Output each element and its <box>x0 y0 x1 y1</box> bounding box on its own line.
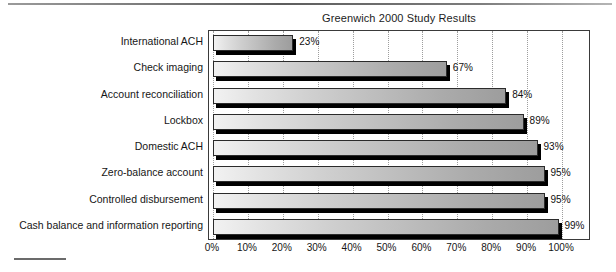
bar-rows: 23%67%84%89%93%95%95%99% <box>209 31 589 239</box>
bar-value-label: 99% <box>565 220 585 231</box>
category-axis-labels: International ACHCheck imagingAccount re… <box>0 30 203 240</box>
bar[interactable] <box>213 35 293 51</box>
x-tick-label: 10% <box>237 242 257 253</box>
bar-value-label: 95% <box>551 194 571 205</box>
category-label: Controlled disbursement <box>0 193 203 205</box>
category-label: Check imaging <box>0 61 203 73</box>
x-tick-label: 20% <box>272 242 292 253</box>
bar-row: 99% <box>209 215 589 241</box>
bar-value-label: 89% <box>530 115 550 126</box>
category-label: Zero-balance account <box>0 166 203 178</box>
category-label: Cash balance and information reporting <box>0 219 203 231</box>
chart-title: Greenwich 2000 Study Results <box>208 12 590 24</box>
category-label: Account reconciliation <box>0 88 203 100</box>
bar[interactable] <box>213 88 506 104</box>
x-tick-label: 100% <box>548 242 574 253</box>
bar[interactable] <box>213 140 538 156</box>
bar[interactable] <box>213 114 524 130</box>
x-tick-label: 40% <box>342 242 362 253</box>
bar-row: 93% <box>209 136 589 162</box>
x-tick-label: 0% <box>205 242 219 253</box>
x-tick-label: 80% <box>481 242 501 253</box>
bar-row: 95% <box>209 162 589 188</box>
x-tick-label: 90% <box>516 242 536 253</box>
category-label: Lockbox <box>0 114 203 126</box>
bar-row: 95% <box>209 189 589 215</box>
x-axis-tick-labels: 0%10%20%30%40%50%60%70%80%90%100% <box>208 242 590 258</box>
bar-row: 84% <box>209 84 589 110</box>
x-tick-label: 60% <box>411 242 431 253</box>
plot-area: 23%67%84%89%93%95%95%99% <box>208 30 590 240</box>
page-top-rule <box>8 3 612 5</box>
bar-row: 89% <box>209 110 589 136</box>
x-tick-label: 30% <box>307 242 327 253</box>
x-tick-label: 70% <box>446 242 466 253</box>
bar[interactable] <box>213 219 559 235</box>
category-label: International ACH <box>0 35 203 47</box>
bar[interactable] <box>213 61 447 77</box>
bar-value-label: 84% <box>512 89 532 100</box>
page-bottom-rule <box>14 258 66 260</box>
bar[interactable] <box>213 166 545 182</box>
bar-row: 67% <box>209 57 589 83</box>
bar-value-label: 93% <box>544 141 564 152</box>
bar-value-label: 67% <box>453 62 473 73</box>
bar-row: 23% <box>209 31 589 57</box>
x-tick-label: 50% <box>376 242 396 253</box>
bar[interactable] <box>213 193 545 209</box>
bar-chart: Greenwich 2000 Study Results 23%67%84%89… <box>0 8 616 258</box>
category-label: Domestic ACH <box>0 140 203 152</box>
bar-value-label: 23% <box>299 36 319 47</box>
bar-value-label: 95% <box>551 167 571 178</box>
